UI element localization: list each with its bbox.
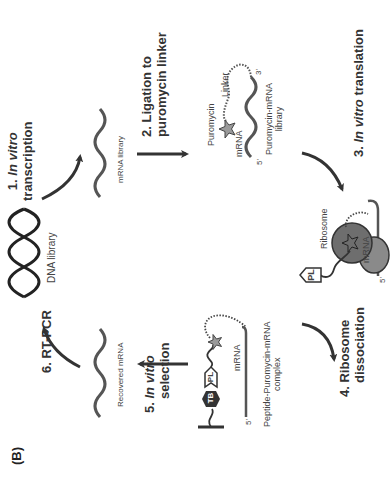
step-text: dissociation	[352, 307, 367, 397]
complex-five-prime-label: 5'	[244, 419, 253, 425]
step-text: Ligation to	[139, 56, 154, 122]
arrow-step-3-icon	[302, 153, 342, 189]
ribosome-label: Ribosome	[319, 208, 329, 249]
step-2-label: 2. Ligation to puromycin linker	[140, 32, 170, 137]
puromycin-star-icon	[219, 120, 235, 138]
step-text: selection	[157, 343, 172, 413]
step-6-label: 6. RT-PCR	[40, 310, 55, 373]
step-text: translation	[351, 29, 366, 95]
recovered-mrna-strand-icon	[95, 329, 105, 417]
step-number: 4.	[337, 386, 352, 397]
step-number: 2.	[139, 126, 154, 137]
complex-pl-label: PL	[206, 370, 215, 384]
recovered-mrna-label: Recovered mRNA	[116, 343, 125, 407]
dna-helix-icon	[9, 209, 39, 297]
tb-label: TB	[206, 391, 215, 405]
ribosome-mrna-label: mRNA	[361, 237, 371, 264]
puromycin-mrna-library-caption: Puromycin-mRNA library	[264, 83, 285, 155]
mrna-strand-icon	[242, 327, 246, 417]
arrow-step-1-icon	[42, 157, 80, 199]
step-text: transcription	[20, 122, 35, 201]
step-text: puromycin linker	[154, 32, 169, 137]
step-number: 6.	[39, 362, 54, 373]
step-italic-text: In vitro	[142, 355, 157, 398]
step-number: 5.	[142, 402, 157, 413]
step-number: 3.	[351, 146, 366, 157]
step-3-label: 3. In vitro translation	[352, 29, 367, 157]
mrna-strand-icon	[246, 77, 256, 157]
mrna-label: mRNA	[234, 131, 244, 158]
three-prime-label: 3'	[254, 69, 263, 75]
pl-label: PL	[306, 268, 316, 282]
step-4-label: 4. Ribosome dissociation	[338, 307, 368, 397]
caption-text: complex	[272, 357, 282, 391]
puromycin-label: Puromycin	[206, 103, 216, 146]
step-number: 1.	[5, 179, 20, 190]
linker-dotted-icon	[205, 315, 246, 338]
complex-mrna-label: mRNA	[232, 345, 242, 372]
step-1-label: 1. In vitro transcription	[6, 122, 36, 201]
linker-label: Linker	[220, 72, 230, 97]
dna-library-label: DNA library	[46, 232, 58, 283]
peptide-complex-caption: Peptide-Puromycin-mRNA complex	[262, 321, 283, 427]
step-text: RT-PCR	[39, 310, 54, 358]
panel-label: (B)	[10, 447, 25, 465]
five-prime-label: 5'	[255, 159, 264, 165]
caption-text: Puromycin-mRNA	[264, 83, 274, 155]
mrna-library-label: mRNA library	[116, 136, 125, 183]
ribosome-five-prime-label: 5'	[378, 277, 387, 283]
diagram-graphics	[0, 0, 391, 479]
step-text: Ribosome	[337, 320, 352, 383]
caption-text: library	[274, 107, 284, 132]
caption-text: Peptide-Puromycin-mRNA	[262, 321, 272, 427]
step-italic-text: In vitro	[351, 99, 366, 142]
mrna-library-strand-icon	[95, 109, 105, 197]
arrow-step-4-icon	[302, 324, 334, 359]
peptide-chain-icon	[320, 251, 350, 277]
step-5-label: 5. In vitro selection	[143, 343, 173, 413]
peptide-chain-icon	[207, 345, 213, 367]
step-italic-text: In vitro	[5, 132, 20, 175]
selection-cycle-diagram: (B) DNA library 1. In vitro transcriptio…	[0, 0, 391, 479]
